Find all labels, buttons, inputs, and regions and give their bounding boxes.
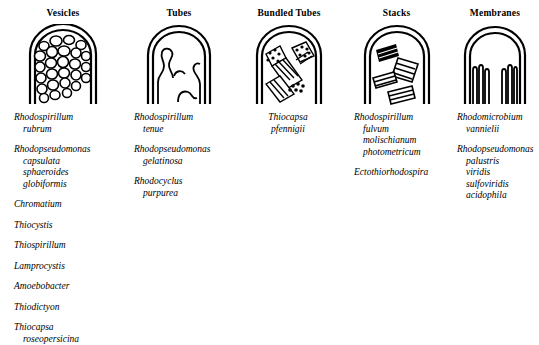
genus-name: Rhodocyclus: [134, 176, 228, 188]
column-title-stacks: Stacks: [348, 8, 445, 18]
column-tubes: Tubes R: [118, 8, 230, 199]
column-stacks: Stacks: [340, 8, 445, 179]
genus-name: Amoebobacter: [14, 281, 116, 293]
genus-name: Rhodopseudomonas: [134, 144, 228, 156]
genus-name: Lamprocystis: [14, 261, 116, 273]
taxon-group: Rhodopseudomonas capsulata sphaeroides g…: [14, 144, 116, 190]
species-name: pfennigii: [238, 124, 338, 136]
species-name: fulvum: [354, 124, 443, 136]
species-name: molischianum: [354, 135, 443, 147]
column-bundled-tubes: Bundled Tubes: [230, 8, 340, 135]
taxon-group: Lamprocystis: [14, 261, 116, 273]
taxa-list-bundled-tubes: Thiocapsa pfennigii: [238, 112, 340, 135]
genus-name: Rhodospirillum: [354, 112, 443, 124]
genus-name: Thiospirillum: [14, 240, 116, 252]
taxon-group: Rhodospirillum tenue: [134, 112, 228, 135]
taxon-group: Chromatium: [14, 199, 116, 211]
species-name: globiformis: [14, 179, 116, 191]
genus-name: Rhodospirillum: [134, 112, 228, 124]
genus-name: Thiocapsa: [238, 112, 338, 124]
column-vesicles: Vesicles: [0, 8, 118, 345]
species-name: sulfoviridis: [457, 179, 537, 191]
species-name: purpurea: [134, 188, 228, 200]
taxon-group: Ectothiorhodospira: [354, 167, 443, 179]
column-title-vesicles: Vesicles: [8, 8, 118, 18]
species-name: vannielii: [457, 124, 537, 136]
taxon-group: Rhodocyclus purpurea: [134, 176, 228, 199]
genus-name: Rhodopseudomonas: [14, 144, 116, 156]
species-name: roseopersicina: [14, 334, 116, 345]
taxon-group: Rhodopseudomonas palustris viridis sulfo…: [457, 144, 537, 202]
column-title-bundled-tubes: Bundled Tubes: [238, 8, 340, 18]
species-name: tenue: [134, 124, 228, 136]
taxon-group: Thiocystis: [14, 220, 116, 232]
taxon-group: Thiocapsa roseopersicina: [14, 322, 116, 345]
vesicles-cell-diagram: [8, 24, 118, 106]
genus-name: Thiodictyon: [14, 302, 116, 314]
taxon-group: Rhodospirillum rubrum: [14, 112, 116, 135]
genus-name: Ectothiorhodospira: [354, 167, 443, 179]
genus-name: Thiocapsa: [14, 322, 116, 334]
species-name: sphaeroides: [14, 167, 116, 179]
taxa-list-membranes: Rhodomicrobium vannielii Rhodopseudomona…: [451, 112, 539, 202]
taxon-group: Rhodopseudomonas gelatinosa: [134, 144, 228, 167]
species-name: capsulata: [14, 156, 116, 168]
genus-name: Rhodopseudomonas: [457, 144, 537, 156]
taxon-group: Rhodospirillum fulvum molischianum photo…: [354, 112, 443, 158]
taxon-group: Thiocapsa pfennigii: [238, 112, 338, 135]
taxon-group: Rhodomicrobium vannielii: [457, 112, 537, 135]
taxon-group: Amoebobacter: [14, 281, 116, 293]
genus-name: Rhodomicrobium: [457, 112, 537, 124]
species-name: viridis: [457, 167, 537, 179]
taxa-list-vesicles: Rhodospirillum rubrum Rhodopseudomonas c…: [8, 112, 118, 345]
taxa-list-stacks: Rhodospirillum fulvum molischianum photo…: [348, 112, 445, 179]
species-name: rubrum: [14, 124, 116, 136]
stacks-cell-diagram: [348, 24, 445, 106]
genus-name: Thiocystis: [14, 220, 116, 232]
column-title-membranes: Membranes: [451, 8, 539, 18]
column-title-tubes: Tubes: [128, 8, 230, 18]
species-name: acidophila: [457, 190, 537, 202]
genus-name: Chromatium: [14, 199, 116, 211]
taxa-list-tubes: Rhodospirillum tenue Rhodopseudomonas ge…: [128, 112, 230, 199]
membranes-cell-diagram: [451, 24, 539, 106]
species-name: gelatinosa: [134, 156, 228, 168]
bundled-tubes-cell-diagram: [238, 24, 340, 106]
taxon-group: Thiospirillum: [14, 240, 116, 252]
column-membranes: Membranes: [445, 8, 539, 202]
species-name: photometricum: [354, 147, 443, 159]
genus-name: Rhodospirillum: [14, 112, 116, 124]
tubes-cell-diagram: [128, 24, 230, 106]
taxon-group: Thiodictyon: [14, 302, 116, 314]
species-name: palustris: [457, 156, 537, 168]
